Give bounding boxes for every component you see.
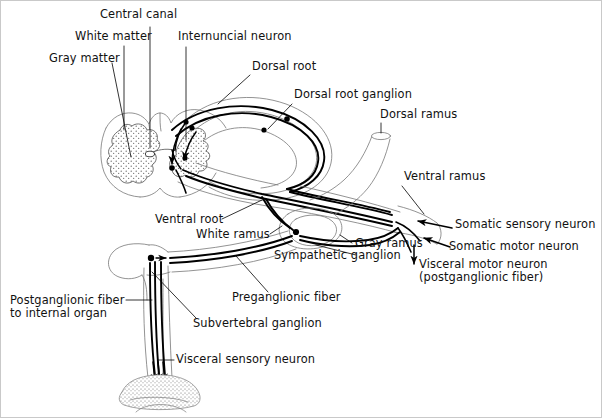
label-somatic-sensory-neuron: Somatic sensory neuron [455,218,595,231]
label-internuncial-neuron: Internuncial neuron [178,30,292,43]
label-visceral-motor-neuron-sub: (postganglionic fiber) [419,271,543,284]
label-dorsal-root: Dorsal root [252,60,316,73]
label-dorsal-ramus: Dorsal ramus [380,108,457,121]
label-ventral-ramus: Ventral ramus [404,170,485,183]
label-subvertebral-ganglion: Subvertebral ganglion [193,317,322,330]
label-gray-matter: Gray matter [49,52,120,65]
label-white-ramus: White ramus [196,228,270,241]
label-visceral-motor-neuron: Visceral motor neuron [419,258,548,271]
label-visceral-sensory-neuron: Visceral sensory neuron [176,353,315,366]
label-ventral-root: Ventral root [155,213,223,226]
label-somatic-motor-neuron: Somatic motor neuron [449,240,579,253]
label-preganglionic-fiber: Preganglionic fiber [232,291,341,304]
label-postganglionic-fiber-line1: Postganglionic fiber [10,294,124,307]
label-sympathetic-ganglion: Sympathetic ganglion [274,249,401,262]
label-central-canal: Central canal [100,8,177,21]
label-postganglionic-fiber-line2: to internal organ [10,307,107,320]
label-dorsal-root-ganglion: Dorsal root ganglion [294,88,412,101]
label-white-matter: White matter [75,30,152,43]
